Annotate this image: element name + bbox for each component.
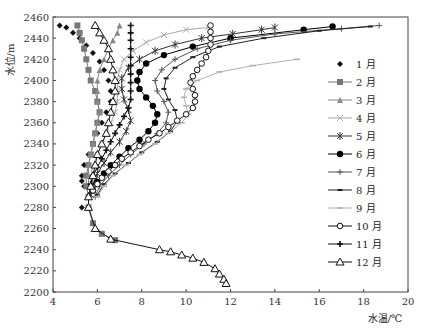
legend: 1 月2 月3 月4 月5 月6 月7 月8 月9 月10 月11 月12 月 <box>328 59 382 268</box>
y-axis-label: 水位/m <box>4 43 16 76</box>
plot-frame <box>53 17 408 292</box>
legend-label: 4 月 <box>356 113 376 124</box>
y-tick-label: 2300 <box>24 181 49 192</box>
y-tick-label: 2260 <box>24 223 49 234</box>
y-tick-label: 2380 <box>24 96 49 107</box>
legend-item: 9 月 <box>328 203 376 214</box>
legend-label: 11 月 <box>356 239 382 250</box>
legend-label: 3 月 <box>356 95 376 106</box>
y-tick-label: 2280 <box>24 202 49 213</box>
y-tick-label: 2240 <box>24 244 49 255</box>
legend-item: 3 月 <box>328 95 376 106</box>
legend-item: 2 月 <box>328 77 376 88</box>
legend-item: 5 月 <box>328 131 376 142</box>
x-tick-label: 8 <box>139 296 145 307</box>
x-tick-label: 6 <box>94 296 100 307</box>
x-tick-label: 18 <box>357 296 370 307</box>
y-tick-label: 2320 <box>24 160 49 171</box>
x-tick-label: 12 <box>224 296 237 307</box>
legend-item: 8 月 <box>328 185 376 196</box>
legend-item: 10 月 <box>328 221 382 232</box>
legend-item: 4 月 <box>328 113 376 124</box>
legend-label: 8 月 <box>356 185 376 196</box>
legend-label: 1 月 <box>356 59 376 70</box>
legend-label: 7 月 <box>356 167 376 178</box>
legend-label: 9 月 <box>356 203 376 214</box>
x-axis-label: 水温/℃ <box>368 313 403 324</box>
series-9-month <box>94 59 300 198</box>
series-8-month <box>95 26 373 196</box>
legend-item: 6 月 <box>328 149 376 160</box>
y-tick-label: 2420 <box>24 54 49 65</box>
x-tick-label: 20 <box>402 296 415 307</box>
x-tick-label: 14 <box>269 296 282 307</box>
legend-label: 10 月 <box>356 221 382 232</box>
y-tick-label: 2340 <box>24 138 49 149</box>
water-temperature-profile-chart: 4681012141618202200222022402260228023002… <box>0 0 421 334</box>
legend-item: 12 月 <box>328 257 382 268</box>
legend-label: 5 月 <box>356 131 376 142</box>
legend-label: 6 月 <box>356 149 376 160</box>
y-tick-label: 2400 <box>24 75 49 86</box>
legend-label: 12 月 <box>356 257 382 268</box>
y-tick-label: 2200 <box>24 287 49 298</box>
y-tick-label: 2360 <box>24 117 49 128</box>
legend-label: 2 月 <box>356 77 376 88</box>
y-tick-label: 2220 <box>24 265 49 276</box>
x-tick-label: 16 <box>313 296 326 307</box>
legend-item: 7 月 <box>328 167 376 178</box>
y-tick-label: 2440 <box>24 33 49 44</box>
y-tick-label: 2460 <box>24 12 49 23</box>
legend-item: 1 月 <box>337 59 376 70</box>
x-tick-label: 10 <box>180 296 193 307</box>
x-tick-label: 4 <box>50 296 56 307</box>
legend-item: 11 月 <box>328 239 382 250</box>
